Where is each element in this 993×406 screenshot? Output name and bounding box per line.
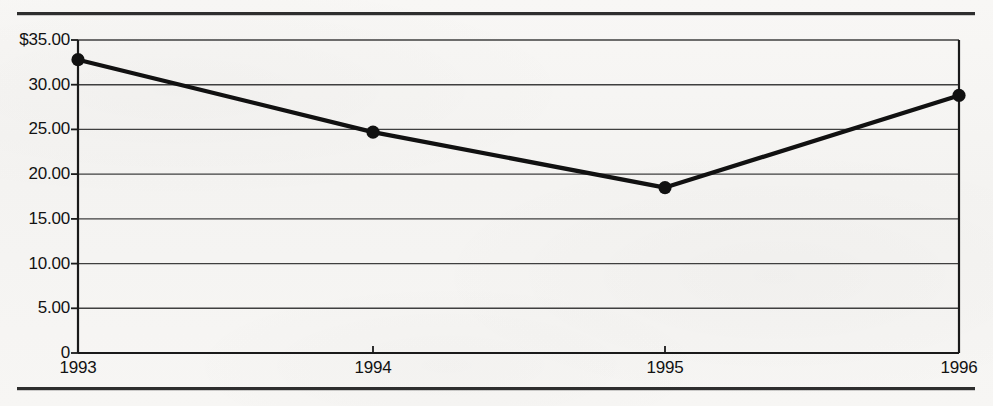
data-point-marker <box>71 53 84 66</box>
line-chart <box>0 0 993 406</box>
data-series-line <box>78 60 959 188</box>
gridlines <box>78 40 959 308</box>
axes <box>78 40 959 353</box>
data-point-marker <box>952 89 965 102</box>
data-point-marker <box>658 181 671 194</box>
data-point-marker <box>366 126 379 139</box>
data-point-markers <box>71 53 965 194</box>
